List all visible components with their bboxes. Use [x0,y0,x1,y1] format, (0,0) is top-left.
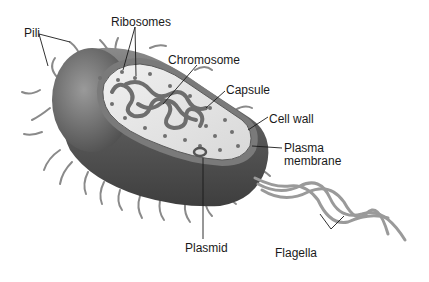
label-ribosomes: Ribosomes [111,16,171,29]
label-plasmid: Plasmid [185,242,228,255]
label-chromosome: Chromosome [168,54,240,67]
label-capsule: Capsule [226,84,270,97]
label-cell-wall: Cell wall [269,113,314,126]
label-pili: Pili [24,27,40,40]
cell-illustration [0,0,429,282]
prokaryotic-cell-diagram: Pili Ribosomes Chromosome Capsule Cell w… [0,0,429,282]
label-flagella: Flagella [275,247,317,260]
label-plasma-membrane-line2: membrane [284,155,341,168]
flagella-group [255,178,405,240]
